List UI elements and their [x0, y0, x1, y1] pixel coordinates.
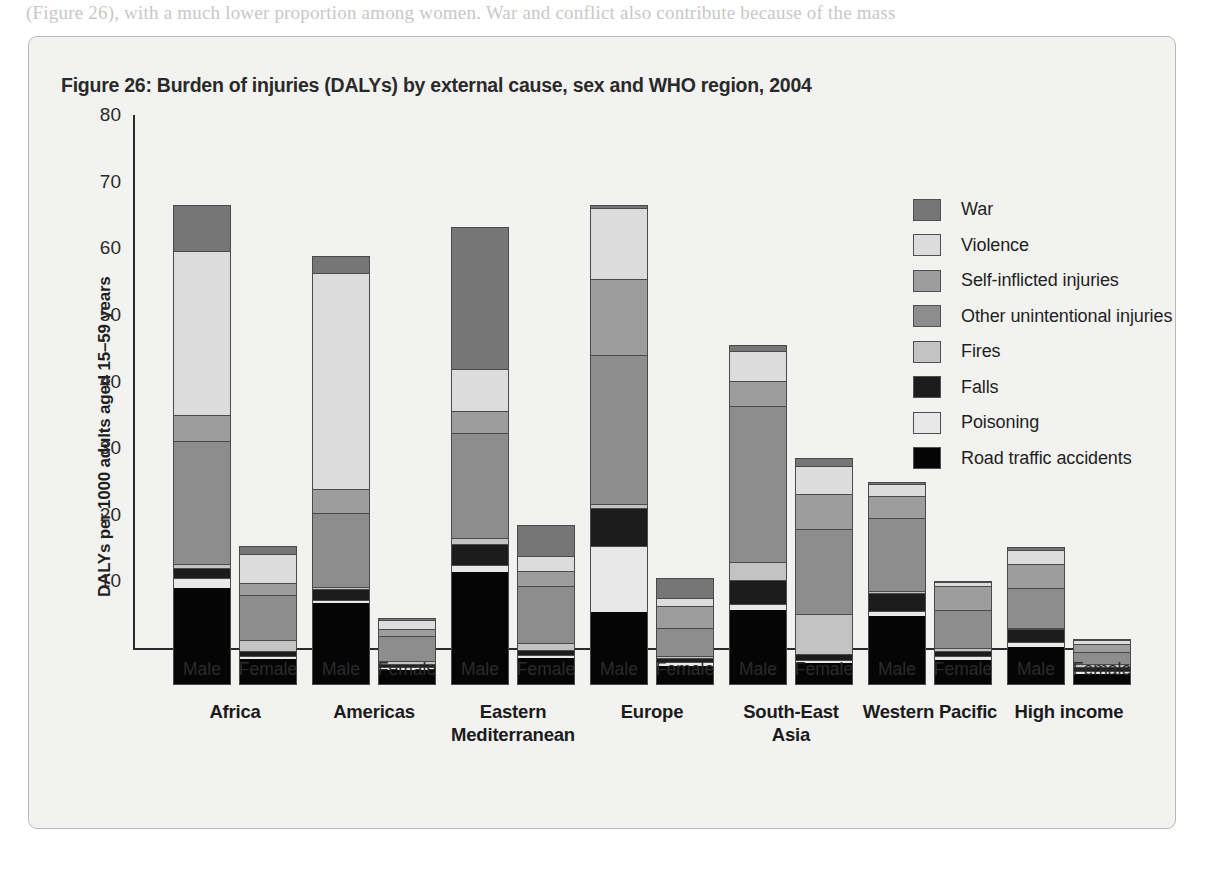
legend-item: Violence — [913, 228, 1193, 264]
y-axis-tick-label: 40 — [81, 371, 121, 393]
bar-segment-falls — [1007, 629, 1065, 642]
legend-label: Fires — [961, 341, 1001, 362]
bar-segment-violence — [451, 369, 509, 411]
bar-segment-war — [451, 227, 509, 368]
bar-segment-poisoning — [312, 600, 370, 603]
bar-segment-fires — [729, 562, 787, 579]
bar-segment-self-inflicted-injuries — [239, 583, 297, 595]
bar-segment-fires — [656, 656, 714, 659]
y-axis-tick-label: 20 — [81, 504, 121, 526]
legend-swatch-icon — [913, 234, 941, 256]
bar-segment-violence — [1073, 640, 1131, 643]
region-label-high-income: High income — [975, 700, 1163, 723]
bar-segment-violence — [517, 556, 575, 571]
legend-item: Falls — [913, 370, 1193, 406]
sex-label-female: Female — [644, 659, 726, 680]
bar-segment-self-inflicted-injuries — [1073, 644, 1131, 652]
y-axis-tick-label: 60 — [81, 237, 121, 259]
bar-segment-self-inflicted-injuries — [934, 586, 992, 609]
bar-segment-other-unintentional-injuries — [934, 610, 992, 648]
bar-segment-other-unintentional-injuries — [378, 636, 436, 661]
bar-segment-fires — [451, 538, 509, 543]
bar-segment-falls — [312, 589, 370, 600]
y-axis-tick-label: 50 — [81, 304, 121, 326]
bar-segment-self-inflicted-injuries — [868, 496, 926, 518]
bar-segment-violence — [868, 484, 926, 496]
legend-swatch-icon — [913, 270, 941, 292]
bar-segment-falls — [590, 508, 648, 546]
bar-segment-other-unintentional-injuries — [312, 513, 370, 587]
legend-swatch-icon — [913, 341, 941, 363]
legend-swatch-icon — [913, 412, 941, 434]
bar-south-east-asia-male — [729, 345, 787, 685]
bar-segment-fires — [868, 591, 926, 593]
bar-segment-falls — [173, 568, 231, 579]
bar-segment-self-inflicted-injuries — [590, 279, 648, 354]
bar-segment-fires — [312, 587, 370, 589]
bar-segment-violence — [378, 620, 436, 629]
legend-item: Fires — [913, 334, 1193, 370]
bar-segment-fires — [173, 564, 231, 568]
bar-segment-war — [312, 256, 370, 273]
sex-label-female: Female — [505, 659, 587, 680]
region-label-line: Mediterranean — [419, 723, 607, 746]
bar-segment-violence — [795, 466, 853, 493]
bar-segment-fires — [795, 614, 853, 653]
legend-swatch-icon — [913, 376, 941, 398]
y-axis-line — [133, 115, 135, 649]
legend-label: Violence — [961, 235, 1029, 256]
bar-segment-violence — [590, 208, 648, 279]
bar-segment-poisoning — [451, 565, 509, 572]
bar-segment-poisoning — [868, 611, 926, 616]
sex-label-female: Female — [366, 659, 448, 680]
legend-label: Self-inflicted injuries — [961, 270, 1119, 291]
legend-swatch-icon — [913, 305, 941, 327]
bar-eastern-mediterranean-male — [451, 227, 509, 685]
bar-segment-violence — [173, 251, 231, 415]
bar-segment-violence — [934, 582, 992, 586]
figure-page: (Figure 26), with a much lower proportio… — [0, 0, 1205, 880]
region-label-line: High income — [975, 700, 1163, 723]
bar-segment-poisoning — [729, 604, 787, 610]
bar-segment-violence — [239, 554, 297, 583]
y-axis-tick-label: 80 — [81, 104, 121, 126]
bar-segment-war — [517, 525, 575, 556]
bar-segment-other-unintentional-injuries — [868, 518, 926, 591]
bar-segment-self-inflicted-injuries — [378, 629, 436, 636]
legend-item: Self-inflicted injuries — [913, 263, 1193, 299]
bar-segment-other-unintentional-injuries — [173, 441, 231, 564]
bar-segment-poisoning — [590, 546, 648, 611]
page-body-text-fragment: (Figure 26), with a much lower proportio… — [0, 0, 1205, 30]
bar-segment-war — [729, 345, 787, 352]
bar-south-east-asia-female — [795, 458, 853, 685]
legend-label: War — [961, 199, 993, 220]
bar-segment-other-unintentional-injuries — [656, 628, 714, 656]
bar-segment-poisoning — [517, 655, 575, 658]
region-label-line: Asia — [697, 723, 885, 746]
bar-segment-other-unintentional-injuries — [795, 529, 853, 614]
bar-segment-fires — [934, 648, 992, 651]
bar-segment-war — [934, 581, 992, 582]
bar-segment-other-unintentional-injuries — [239, 595, 297, 640]
bar-segment-violence — [312, 273, 370, 490]
bar-segment-self-inflicted-injuries — [795, 494, 853, 529]
legend-item: Poisoning — [913, 405, 1193, 441]
bar-europe-male — [590, 205, 648, 685]
bar-segment-falls — [451, 544, 509, 565]
bar-segment-falls — [934, 651, 992, 656]
legend-item: War — [913, 192, 1193, 228]
bar-segment-other-unintentional-injuries — [729, 406, 787, 563]
bar-segment-war — [239, 546, 297, 554]
figure-title: Figure 26: Burden of injuries (DALYs) by… — [61, 74, 812, 97]
sex-label-female: Female — [783, 659, 865, 680]
legend-swatch-icon — [913, 199, 941, 221]
bar-segment-self-inflicted-injuries — [729, 381, 787, 406]
legend-label: Falls — [961, 377, 999, 398]
figure-frame: Figure 26: Burden of injuries (DALYs) by… — [28, 36, 1176, 829]
bar-segment-self-inflicted-injuries — [1007, 564, 1065, 588]
bar-segment-fires — [239, 640, 297, 651]
bar-americas-male — [312, 256, 370, 685]
bar-segment-war — [656, 578, 714, 597]
bar-segment-war — [590, 205, 648, 208]
bar-segment-war — [378, 618, 436, 620]
